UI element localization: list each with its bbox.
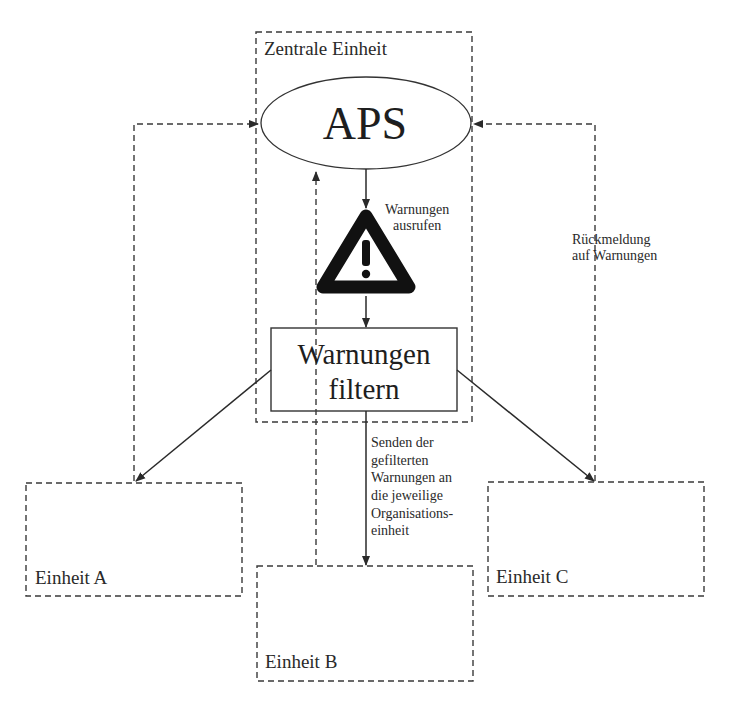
filter-label-line-1: Warnungen — [270, 337, 458, 372]
filter-to-unit-c-arrow — [457, 370, 594, 481]
send-line: einheit — [371, 522, 453, 540]
send-line: Organisations- — [371, 505, 453, 523]
send-line: die jeweilige — [371, 487, 453, 505]
feedback-label-line-2: auf Warnungen — [572, 248, 657, 264]
aps-label: APS — [300, 98, 430, 151]
unit-b-label: Einheit B — [265, 651, 337, 673]
call-warnings-label: Warnungen ausrufen — [385, 202, 449, 234]
send-line: Warnungen an — [371, 469, 453, 487]
filter-to-unit-a-arrow — [136, 370, 271, 481]
call-warnings-line-1: Warnungen — [385, 202, 449, 218]
feedback-unit-c-line — [474, 124, 595, 481]
send-warnings-label: Senden der gefilterten Warnungen an die … — [371, 434, 453, 540]
call-warnings-line-2: ausrufen — [385, 218, 449, 234]
send-line: gefilterten — [371, 452, 453, 470]
feedback-label: Rückmeldung auf Warnungen — [572, 232, 657, 264]
filter-label-line-2: filtern — [270, 372, 458, 407]
central-unit-title: Zentrale Einheit — [264, 38, 387, 60]
unit-a-label: Einheit A — [35, 567, 107, 589]
filter-label: Warnungen filtern — [270, 337, 458, 407]
feedback-unit-a-line — [134, 124, 258, 481]
unit-c-label: Einheit C — [496, 566, 568, 588]
feedback-label-line-1: Rückmeldung — [572, 232, 657, 248]
send-line: Senden der — [371, 434, 453, 452]
